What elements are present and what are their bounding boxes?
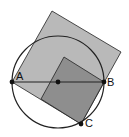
label-b: B [107, 76, 114, 88]
diagram-canvas: ABC [0, 0, 129, 137]
label-a: A [16, 70, 24, 82]
geometry-diagram: ABC [0, 0, 129, 137]
label-c: C [85, 117, 93, 129]
point-a [10, 80, 15, 85]
point-b [102, 80, 107, 85]
point-c [79, 122, 84, 127]
point-o [56, 80, 61, 85]
